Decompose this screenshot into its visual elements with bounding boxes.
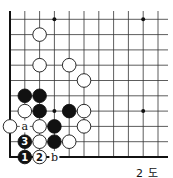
diagram-caption: 2 도: [136, 164, 160, 178]
white-stone: [33, 120, 47, 134]
white-stone: [33, 28, 47, 42]
white-stone: [77, 104, 91, 118]
letter-marker-b: b: [51, 151, 58, 164]
white-stone: [33, 58, 47, 72]
white-stone: [62, 58, 76, 72]
move-number: 3: [21, 136, 28, 147]
white-stone: [18, 104, 32, 118]
black-stone: [48, 120, 62, 134]
star-point-icon: [141, 17, 145, 21]
black-stone: [48, 135, 62, 149]
move-number: 2: [36, 152, 43, 163]
move-number: 1: [21, 152, 28, 163]
go-board: 312 ab: [0, 0, 173, 178]
black-stone: [33, 89, 47, 103]
white-stone: [3, 120, 17, 134]
black-stone: [18, 89, 32, 103]
white-stone: [62, 135, 76, 149]
star-point-icon: [141, 109, 145, 113]
star-point-icon: [52, 109, 56, 113]
white-stone: [33, 135, 47, 149]
white-stone: [77, 120, 91, 134]
letter-marker-a: a: [22, 120, 29, 133]
black-stone: [62, 104, 76, 118]
white-stone: [77, 74, 91, 88]
star-point-icon: [52, 17, 56, 21]
black-stone: [33, 104, 47, 118]
